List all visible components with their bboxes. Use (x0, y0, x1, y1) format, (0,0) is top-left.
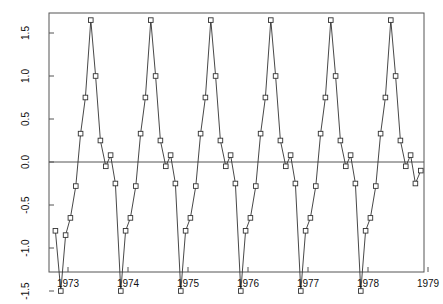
y-tick-label: -0.5 (20, 190, 32, 220)
y-tick-label: -1.5 (20, 276, 32, 304)
line-chart-plot (0, 0, 443, 304)
y-tick-label: 1.5 (20, 18, 32, 48)
x-tick-label: 1974 (108, 278, 148, 290)
x-tick-label: 1975 (168, 278, 208, 290)
y-tick-label: 0.5 (20, 104, 32, 134)
data-markers (53, 18, 423, 294)
x-tick-label: 1977 (288, 278, 328, 290)
chart-container: (thousands) 1.51.00.50.0-0.5-1.0-1.5 197… (0, 0, 443, 304)
x-tick-label: 1973 (48, 278, 88, 290)
x-tick-label: 1976 (228, 278, 268, 290)
y-tick-label: 1.0 (20, 61, 32, 91)
x-tick-label: 1979 (408, 278, 443, 290)
x-tick-label: 1978 (348, 278, 388, 290)
y-tick-label: 0.0 (20, 147, 32, 177)
y-tick-label: -1.0 (20, 233, 32, 263)
